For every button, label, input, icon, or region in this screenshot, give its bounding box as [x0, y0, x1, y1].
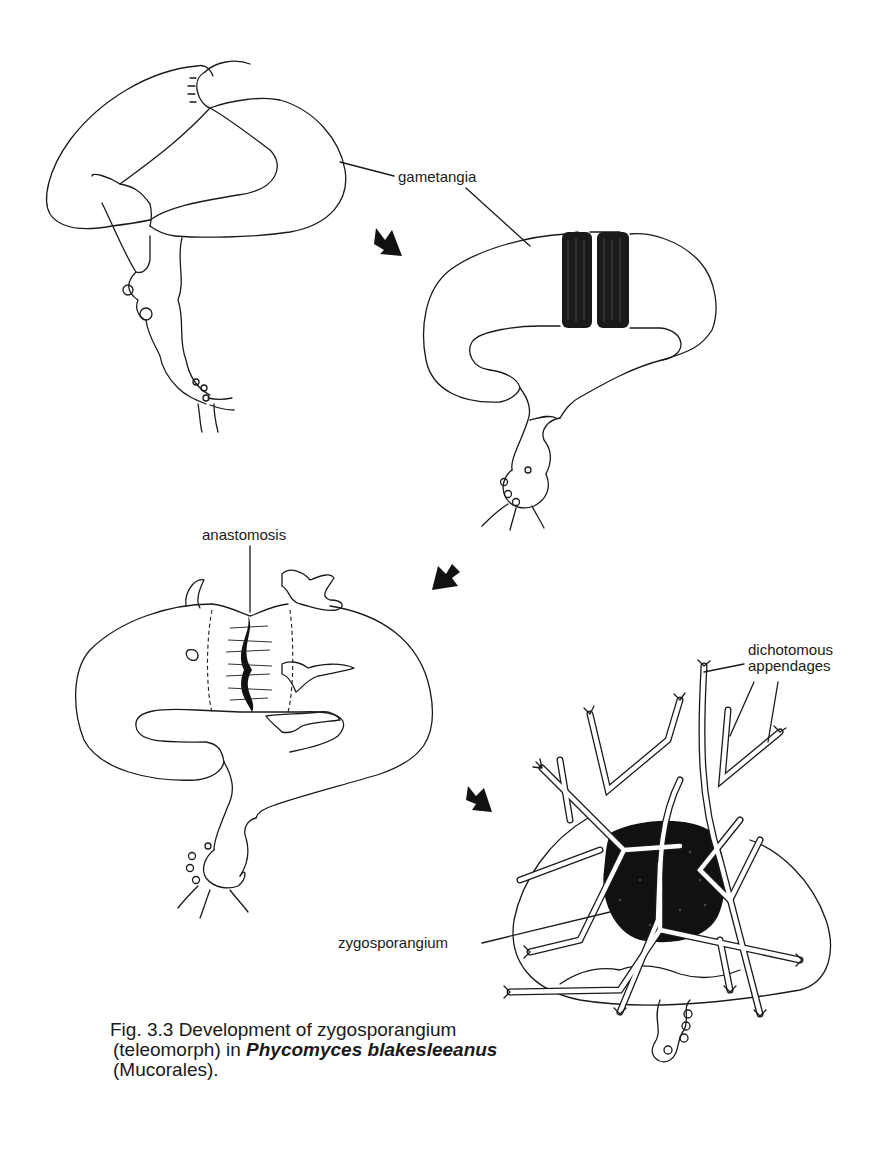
stage-1-gametangia-drawing: [47, 61, 346, 432]
caption-line-2: (teleomorph) in Phycomyces blakesleeanus: [110, 1040, 497, 1060]
dichotomous-appendages-leader-line-2: [730, 682, 754, 736]
caption-species-name: Phycomyces blakesleeanus: [246, 1039, 497, 1060]
arrow-stage3-to-stage4-icon: [466, 786, 492, 812]
gametangia-leader-line-1: [340, 162, 394, 176]
figure-caption: Fig. 3.3 Development of zygosporangium (…: [110, 1020, 497, 1080]
arrow-stage1-to-stage2-icon: [374, 228, 402, 256]
zygosporangium-leader-line: [482, 912, 610, 943]
gametangia-leader-line-2: [466, 188, 530, 246]
label-dichotomous-line2: appendages: [748, 657, 831, 674]
stage-3-anastomosis-drawing: [76, 570, 433, 918]
stage-4-zygosporangium-drawing: [504, 660, 830, 1062]
caption-line-2-prefix: (teleomorph) in: [113, 1039, 246, 1060]
arrow-stage2-to-stage3-icon: [432, 564, 460, 590]
label-zygosporangium: zygosporangium: [338, 934, 448, 951]
label-anastomosis: anastomosis: [202, 526, 286, 543]
caption-line-1: Fig. 3.3 Development of zygosporangium: [110, 1020, 497, 1040]
stage-2-gametangia-drawing: [424, 232, 716, 530]
label-gametangia: gametangia: [398, 168, 476, 185]
label-dichotomous-line1: dichotomous: [748, 641, 833, 658]
dichotomous-appendages-leader-line-1: [704, 664, 744, 672]
caption-line-3: (Mucorales).: [110, 1060, 497, 1080]
